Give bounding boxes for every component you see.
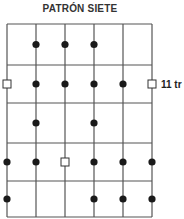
note-dot-icon — [90, 158, 97, 165]
note-dot-icon — [32, 158, 39, 165]
note-dot-icon — [90, 195, 97, 202]
note-dot-icon — [119, 80, 126, 87]
note-dot-icon — [32, 41, 39, 48]
root-note-square-icon — [61, 158, 69, 166]
note-dot-icon — [32, 119, 39, 126]
note-dot-icon — [148, 195, 155, 202]
note-dot-icon — [90, 80, 97, 87]
note-dot-icon — [61, 41, 68, 48]
note-dot-icon — [90, 119, 97, 126]
root-note-square-icon — [3, 80, 11, 88]
note-dot-icon — [32, 80, 39, 87]
note-dot-icon — [119, 195, 126, 202]
note-dot-icon — [3, 158, 10, 165]
note-dot-icon — [119, 158, 126, 165]
root-note-square-icon — [148, 80, 156, 88]
note-dot-icon — [61, 80, 68, 87]
note-dot-icon — [3, 195, 10, 202]
note-dot-icon — [148, 158, 155, 165]
fretboard-diagram — [0, 0, 184, 219]
fret-position-label: 11 tr — [161, 79, 182, 90]
note-dot-icon — [90, 41, 97, 48]
